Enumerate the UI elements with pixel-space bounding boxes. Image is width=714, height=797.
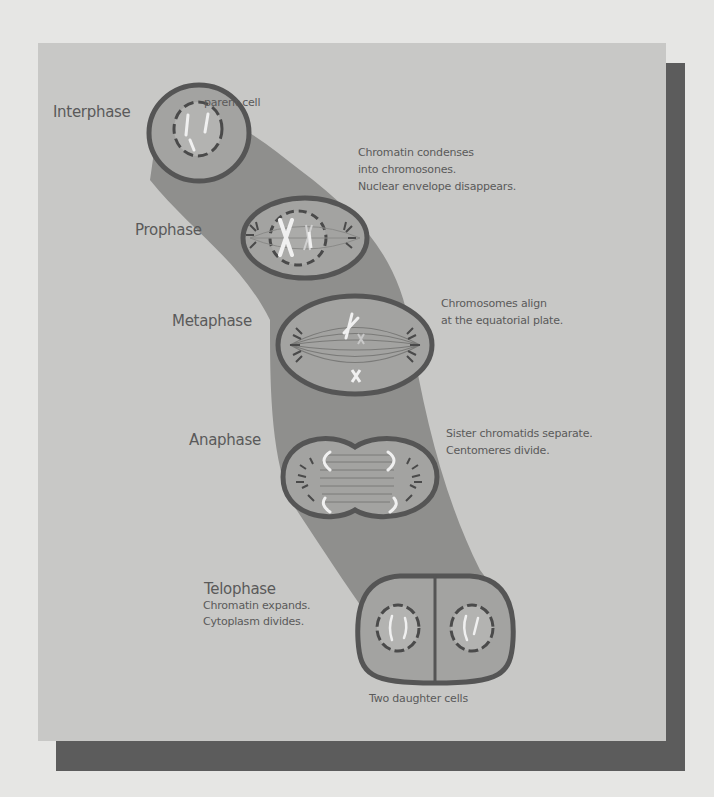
prophase-description-line: into chromosones. — [358, 163, 456, 176]
prophase-description-line: Nuclear envelope disappears. — [358, 180, 516, 193]
stage-label-telophase: Telophase — [204, 580, 276, 598]
prophase-description-line: Chromatin condenses — [358, 146, 474, 159]
stage-label-prophase: Prophase — [135, 221, 202, 239]
anaphase-description-line: Centomeres divide. — [446, 444, 549, 457]
daughter-cells-label: Two daughter cells — [369, 692, 468, 705]
stage-label-anaphase: Anaphase — [189, 431, 261, 449]
stage-label-metaphase: Metaphase — [172, 312, 252, 330]
telophase-description-line: Cytoplasm divides. — [203, 615, 304, 628]
telophase-cells — [358, 576, 514, 683]
stage-label-interphase: Interphase — [53, 103, 130, 121]
metaphase-description-line: at the equatorial plate. — [441, 314, 563, 327]
anaphase-cell — [283, 439, 437, 517]
parent-cell-label: parent cell — [204, 96, 260, 109]
prophase-cell — [243, 198, 367, 278]
metaphase-cell — [278, 296, 432, 394]
telophase-description-line: Chromatin expands. — [203, 599, 310, 612]
metaphase-description-line: Chromosomes align — [441, 297, 547, 310]
anaphase-description-line: Sister chromatids separate. — [446, 427, 593, 440]
